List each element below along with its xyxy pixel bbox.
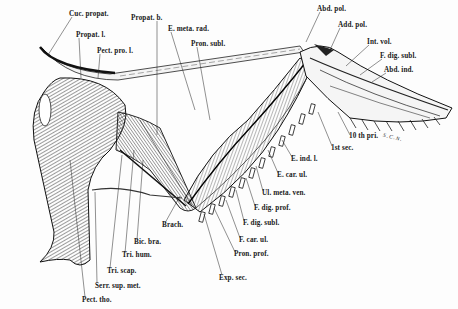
label-f-dig-subl-top: F. dig. subl. — [380, 53, 416, 60]
label-brach: Brach. — [162, 222, 183, 229]
hand-and-primaries — [300, 44, 452, 131]
wing-illustration — [0, 0, 458, 309]
label-cuc-propat: Cuc. propat. — [69, 11, 109, 18]
label-add-pol: Add. pol. — [338, 22, 367, 29]
label-propat-l: Propat. l. — [76, 32, 105, 39]
label-tri-hum: Tri. hum. — [122, 252, 152, 259]
label-bic-bra: Bic. bra. — [134, 239, 161, 246]
label-pron-subl: Pron. subl. — [191, 41, 225, 48]
label-f-car-ul: F. car. ul. — [239, 237, 268, 244]
label-exp-sec: Exp. sec. — [219, 275, 247, 282]
label-1st-sec: 1st sec. — [331, 145, 353, 152]
label-10th-pri: 10 th pri. — [349, 133, 378, 140]
label-pect-tho: Pect. tho. — [82, 297, 112, 304]
label-serr-sup-met: Serr. sup. met. — [95, 283, 141, 290]
label-e-car-ul: E. car. ul. — [277, 172, 307, 179]
label-pect-pro-l: Pect. pro. l. — [97, 48, 133, 55]
label-propat-b: Propat. b. — [131, 15, 162, 22]
label-int-vol: Int. vol. — [367, 39, 392, 46]
pectoral-muscle-mass — [33, 78, 126, 265]
label-ul-meta-ven: Ul. meta. ven. — [262, 190, 306, 197]
label-f-dig-prof: F. dig. prof. — [254, 205, 291, 212]
label-f-dig-subl: F. dig. subl. — [243, 220, 279, 227]
label-e-ind-l: E. ind. l. — [291, 156, 318, 163]
label-tri-scap: Tri. scap. — [107, 268, 136, 275]
label-e-meta-rad: E. meta. rad. — [168, 26, 209, 33]
wing-muscle-diagram: Cuc. propat. Propat. b. E. meta. rad. Pr… — [0, 0, 458, 309]
label-abd-ind: Abd. ind. — [384, 67, 413, 74]
label-pron-prof: Pron. prof. — [234, 251, 269, 258]
label-abd-pol: Abd. pol. — [317, 6, 346, 13]
